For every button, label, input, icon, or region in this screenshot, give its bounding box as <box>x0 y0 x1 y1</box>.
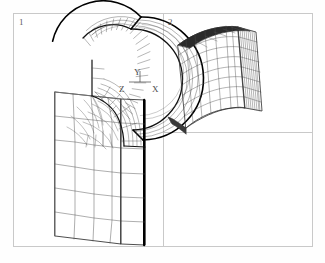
axis-label-y: Y <box>134 68 141 77</box>
axis-label-x: X <box>152 85 159 94</box>
mesh-figure-svg <box>0 0 325 263</box>
panel-2-label: 2 <box>168 18 173 27</box>
axis-label-z: Z <box>119 85 125 94</box>
figure-frame <box>14 14 313 247</box>
panel-1-label: 1 <box>19 18 24 27</box>
figure-canvas: 1 2 Y X Z <box>0 0 325 263</box>
